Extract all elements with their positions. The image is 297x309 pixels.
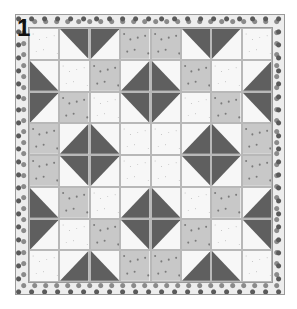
quilt-block [15,14,285,295]
quilt-cell [90,123,120,155]
quilt-cell [59,28,89,60]
quilt-cell [29,155,59,187]
block-number-label: 1 [17,14,30,42]
quilt-cell [59,123,89,155]
quilt-cell [59,155,89,187]
quilt-cell [181,155,211,187]
quilt-cell [29,92,59,124]
quilt-cell [29,123,59,155]
quilt-grid [28,27,273,283]
quilt-cell [120,219,150,251]
quilt-cell [181,28,211,60]
quilt-cell [181,60,211,92]
quilt-cell [29,250,59,282]
quilt-cell [90,250,120,282]
quilt-cell [242,28,272,60]
quilt-cell [242,250,272,282]
quilt-cell [90,28,120,60]
quilt-cell [211,219,241,251]
quilt-cell [120,250,150,282]
quilt-cell [242,60,272,92]
quilt-cell [181,219,211,251]
quilt-cell [29,28,59,60]
quilt-cell [242,123,272,155]
quilt-cell [151,28,181,60]
quilt-cell [90,155,120,187]
quilt-cell [120,92,150,124]
quilt-cell [59,250,89,282]
quilt-cell [211,123,241,155]
quilt-cell [151,187,181,219]
quilt-cell [151,155,181,187]
quilt-cell [211,92,241,124]
quilt-cell [181,92,211,124]
quilt-cell [120,28,150,60]
quilt-cell [181,123,211,155]
quilt-cell [242,187,272,219]
quilt-cell [29,187,59,219]
quilt-cell [151,92,181,124]
quilt-cell [211,250,241,282]
quilt-cell [90,219,120,251]
quilt-cell [59,219,89,251]
quilt-cell [211,60,241,92]
quilt-cell [120,187,150,219]
quilt-cell [29,60,59,92]
quilt-cell [59,187,89,219]
quilt-cell [90,60,120,92]
quilt-cell [242,219,272,251]
quilt-cell [242,155,272,187]
quilt-cell [90,92,120,124]
quilt-cell [151,123,181,155]
quilt-cell [151,60,181,92]
quilt-cell [151,250,181,282]
quilt-cell [90,187,120,219]
quilt-cell [120,123,150,155]
quilt-cell [120,60,150,92]
quilt-cell [211,155,241,187]
quilt-cell [151,219,181,251]
quilt-cell [211,187,241,219]
quilt-cell [242,92,272,124]
quilt-cell [181,187,211,219]
quilt-cell [211,28,241,60]
quilt-cell [59,92,89,124]
quilt-cell [29,219,59,251]
quilt-cell [181,250,211,282]
quilt-cell [120,155,150,187]
quilt-cell [59,60,89,92]
